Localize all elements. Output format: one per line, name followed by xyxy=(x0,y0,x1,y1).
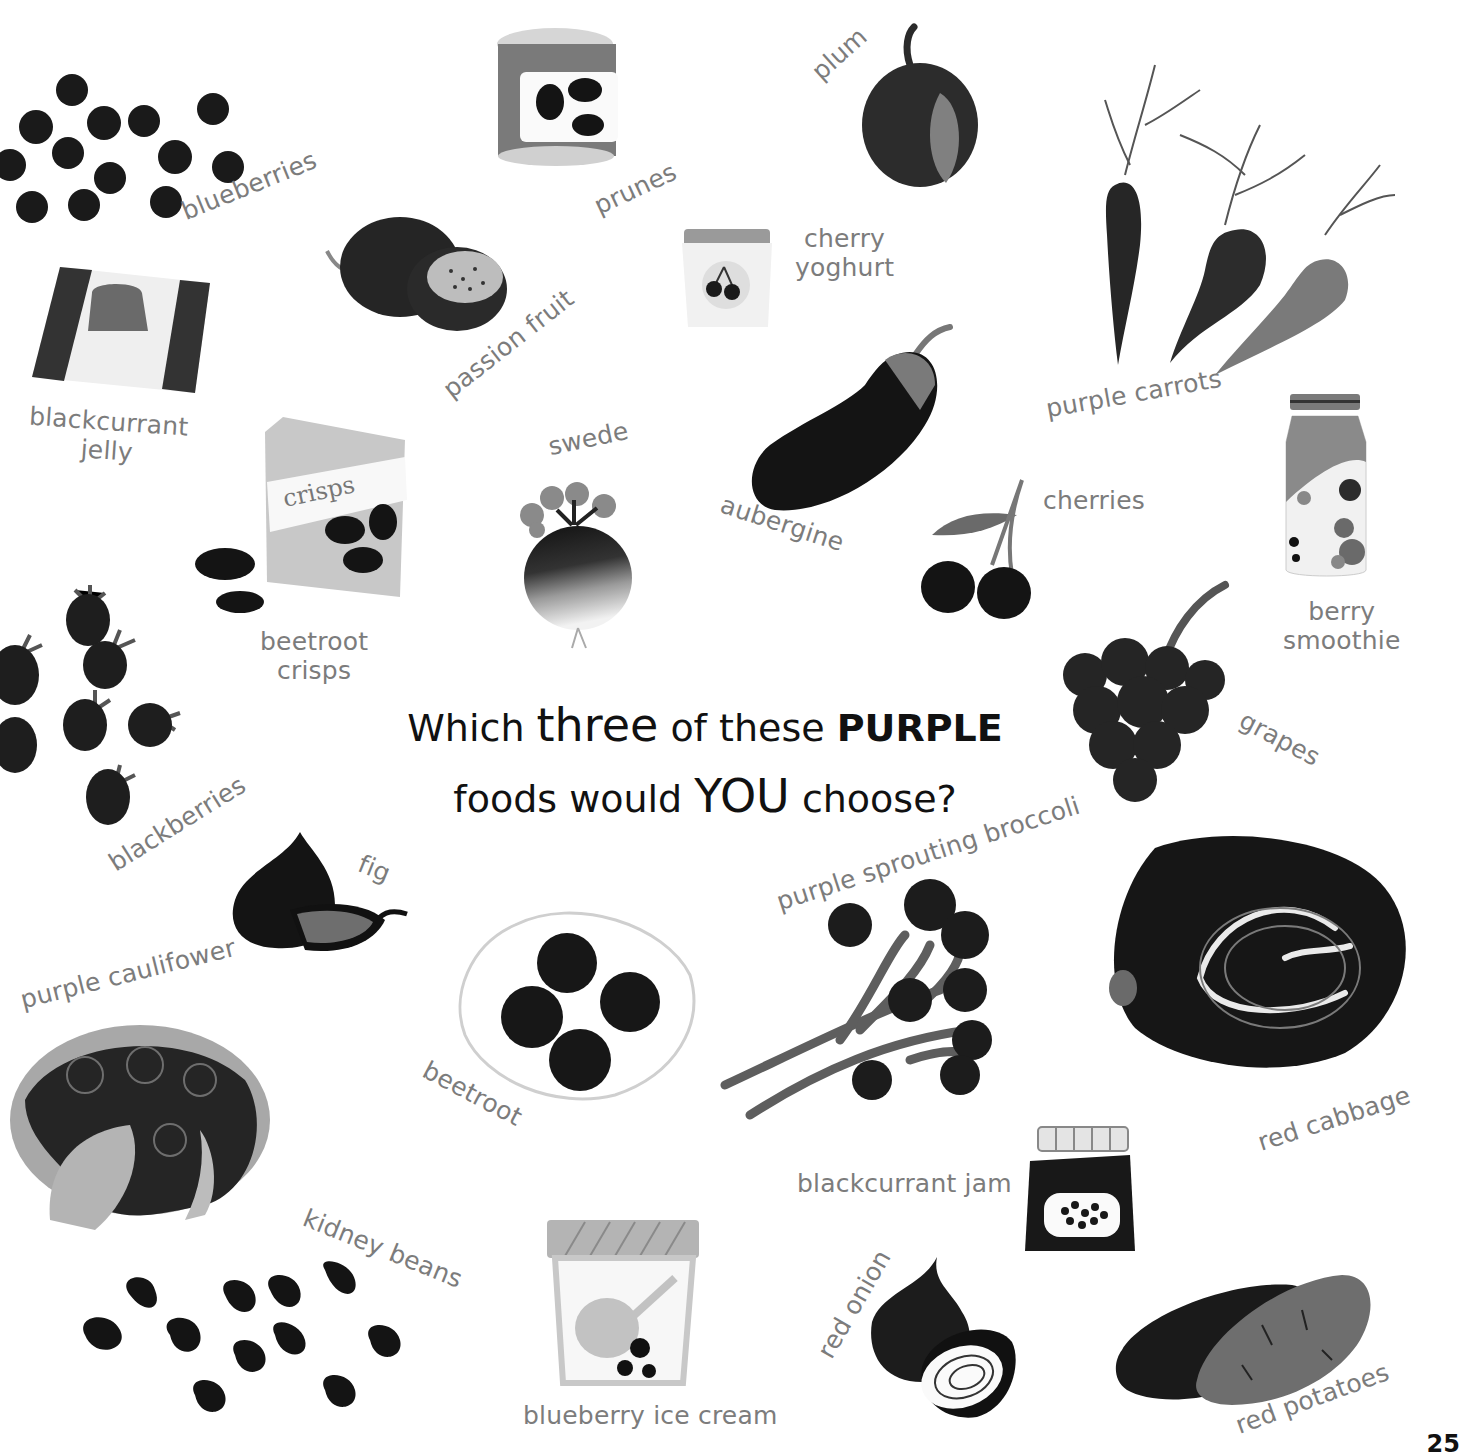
question-heading: Which three of these PURPLE foods would … xyxy=(380,690,1030,833)
label-purple-carrots: purple carrots xyxy=(1044,365,1224,424)
label-cauliflower: purple caulifower xyxy=(18,934,239,1015)
question-line-1: Which three of these PURPLE xyxy=(380,690,1030,761)
kidney-beans-icon[interactable] xyxy=(75,1265,415,1450)
question-line-2: foods would YOU choose? xyxy=(380,761,1030,832)
label-ice-cream: blueberry ice cream xyxy=(523,1402,778,1431)
swede-icon[interactable] xyxy=(512,470,642,650)
label-blackcurrant-jelly: blackcurrant jelly xyxy=(26,403,189,471)
label-line-2: crisps xyxy=(260,657,368,686)
label-beetroot-crisps: beetroot crisps xyxy=(260,628,368,686)
label-line-2: smoothie xyxy=(1283,627,1401,656)
plum-icon[interactable] xyxy=(858,25,983,190)
question-text: choose? xyxy=(802,777,957,821)
cauliflower-icon[interactable] xyxy=(5,1020,275,1230)
jam-jar-icon[interactable] xyxy=(1020,1125,1140,1255)
fig-icon[interactable] xyxy=(225,830,410,955)
smoothie-jar-icon[interactable] xyxy=(1278,392,1378,582)
blueberries-icon[interactable] xyxy=(0,35,250,205)
label-line-1: cherry xyxy=(795,225,894,254)
grapes-icon[interactable] xyxy=(1055,580,1230,810)
page-number: 25 xyxy=(1427,1430,1460,1456)
cherries-icon[interactable] xyxy=(922,475,1042,620)
beetroot-plate-icon[interactable] xyxy=(455,905,705,1105)
question-emphasis-you: YOU xyxy=(694,769,789,823)
label-line-1: berry xyxy=(1283,598,1401,627)
label-line-2: yoghurt xyxy=(795,254,894,283)
broccoli-icon[interactable] xyxy=(720,880,1020,1120)
jelly-icon[interactable] xyxy=(30,265,215,395)
passion-fruit-icon[interactable] xyxy=(325,215,510,335)
question-text: foods would xyxy=(453,777,682,821)
question-emphasis-purple: PURPLE xyxy=(837,706,1003,750)
label-red-cabbage: red cabbage xyxy=(1254,1081,1414,1157)
label-cherry-yoghurt: cherry yoghurt xyxy=(795,225,894,283)
label-grapes: grapes xyxy=(1234,706,1324,772)
carrots-icon[interactable] xyxy=(1085,45,1405,365)
question-text: Which xyxy=(407,706,524,750)
crisps-bag-icon[interactable]: crisps xyxy=(195,412,420,612)
question-text: of these xyxy=(670,706,824,750)
prunes-can-icon[interactable] xyxy=(490,22,625,172)
ice-cream-tub-icon[interactable] xyxy=(545,1218,710,1388)
label-blackcurrant-jam: blackcurrant jam xyxy=(797,1170,1012,1199)
blackberries-icon[interactable] xyxy=(0,575,200,830)
question-emphasis-three: three xyxy=(537,698,659,752)
label-line-1: beetroot xyxy=(260,628,368,657)
cabbage-icon[interactable] xyxy=(1105,828,1415,1068)
label-cherries: cherries xyxy=(1043,487,1145,516)
label-berry-smoothie: berry smoothie xyxy=(1283,598,1401,656)
label-swede: swede xyxy=(546,417,631,462)
